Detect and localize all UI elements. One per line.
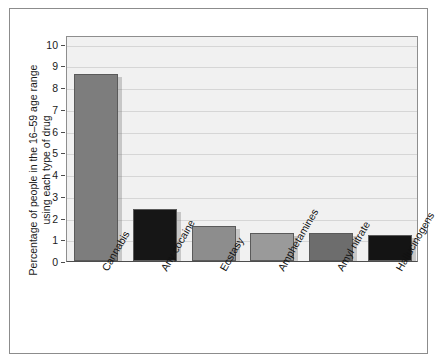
y-tick-mark [61,110,65,111]
y-tick-label: 6 [44,126,58,138]
y-tick-mark [61,88,65,89]
y-tick-label: 5 [44,147,58,159]
y-tick-mark [61,175,65,176]
y-tick-label: 7 [44,104,58,116]
bar-any-cocaine [133,209,177,261]
bar-hallucinogens [368,235,412,261]
gridline [67,46,417,47]
bar-ecstasy [192,226,236,261]
plot-area [66,36,418,262]
y-tick-mark [61,45,65,46]
y-tick-label: 9 [44,60,58,72]
bar-amyl-nitrate [309,233,353,261]
y-tick-mark [61,240,65,241]
y-tick-mark [61,219,65,220]
y-tick-mark [61,66,65,67]
y-tick-label: 4 [44,169,58,181]
y-tick-label: 8 [44,82,58,94]
y-tick-label: 0 [44,256,58,268]
y-tick-mark [61,262,65,263]
y-tick-mark [61,153,65,154]
y-tick-label: 10 [44,39,58,51]
y-tick-mark [61,132,65,133]
bar-cannabis [74,74,118,261]
y-tick-mark [61,197,65,198]
gridline [67,67,417,68]
bar-amphetamines [250,233,294,261]
y-tick-label: 1 [44,234,58,246]
y-tick-label: 3 [44,191,58,203]
bar-chart-figure: Percentage of people in the 16–59 age ra… [0,0,437,363]
y-tick-label: 2 [44,213,58,225]
